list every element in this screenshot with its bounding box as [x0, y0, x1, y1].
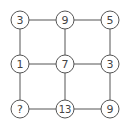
node-r0c1: 9: [56, 11, 74, 29]
node-r2c2: 9: [101, 100, 119, 118]
node-r2c0: ?: [11, 100, 29, 118]
node-label: 3: [107, 58, 114, 71]
node-label: 7: [62, 58, 69, 71]
node-r0c0: 3: [11, 11, 29, 29]
node-label: 1: [17, 58, 24, 71]
node-r2c1: 13: [56, 100, 74, 118]
node-label: 13: [59, 104, 72, 115]
node-r1c1: 7: [56, 55, 74, 73]
node-r1c2: 3: [101, 55, 119, 73]
node-r1c0: 1: [11, 55, 29, 73]
node-label: 9: [107, 103, 114, 116]
node-label: 3: [17, 14, 24, 27]
grid-diagram: 3 9 5 1 7 3 ? 13 9: [0, 0, 127, 125]
node-label: 9: [62, 14, 69, 27]
node-r0c2: 5: [101, 11, 119, 29]
node-label-unknown: ?: [17, 103, 23, 116]
node-label: 5: [107, 14, 114, 27]
